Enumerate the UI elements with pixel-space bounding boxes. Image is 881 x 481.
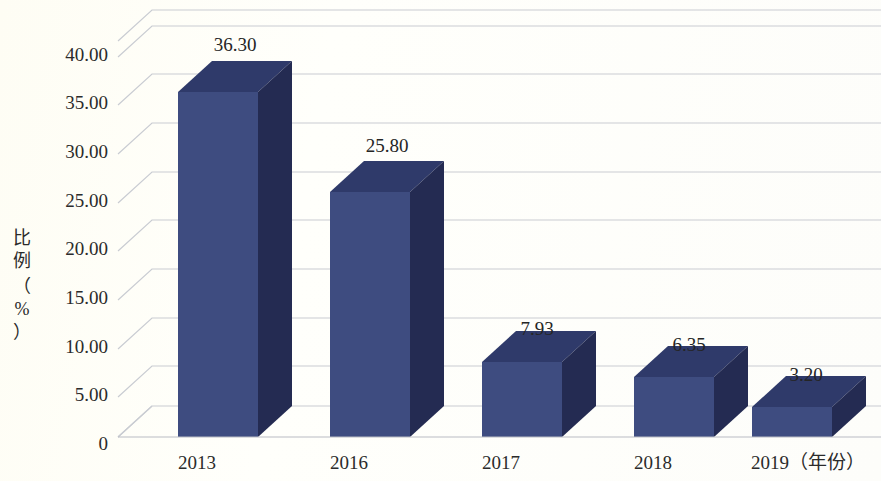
y-tick-label: 40.00 (65, 44, 108, 65)
y-axis-title-char: （ (13, 276, 31, 296)
x-axis-category-labels: 2013 2016 2017 2018 2019（年份） (178, 452, 865, 473)
data-label-2018: 6.35 (672, 334, 705, 355)
x-tick-label-2017: 2017 (482, 452, 520, 473)
x-tick-label-2013: 2013 (178, 452, 216, 473)
y-tick-label: 0 (99, 433, 109, 454)
bar-front-face (482, 362, 562, 437)
x-tick-label-2018: 2018 (634, 452, 672, 473)
data-label-2017: 7.93 (520, 318, 553, 339)
y-axis-title-char: 比 (13, 228, 31, 248)
bar-front-face (634, 377, 714, 437)
bar-2016[interactable] (330, 161, 444, 437)
bar-2017[interactable] (482, 331, 596, 437)
y-tick-label: 30.00 (65, 141, 108, 162)
y-axis-title: 比 例 （ % ） (13, 228, 31, 342)
x-tick-label-2016: 2016 (330, 452, 368, 473)
y-axis-title-char: ） (13, 322, 31, 342)
bar-side-face (410, 161, 444, 437)
y-tick-label: 35.00 (65, 92, 108, 113)
y-tick-label: 15.00 (65, 287, 108, 308)
bar-front-face (178, 92, 258, 437)
bar-2013[interactable] (178, 61, 292, 437)
y-axis-tick-labels: 40.00 35.00 30.00 25.00 20.00 15.00 10.0… (65, 44, 108, 454)
data-label-2019: 3.20 (789, 364, 822, 385)
bar-2018[interactable] (634, 346, 748, 437)
bar-side-face (258, 61, 292, 437)
data-label-2016: 25.80 (366, 135, 409, 156)
y-axis-title-char: % (15, 299, 30, 319)
y-tick-label: 25.00 (65, 190, 108, 211)
floor-left-diagonal (118, 406, 152, 437)
bar-front-face (752, 407, 832, 437)
chart-container: 40.00 35.00 30.00 25.00 20.00 15.00 10.0… (0, 0, 881, 481)
y-tick-label: 5.00 (75, 384, 108, 405)
y-tick-label: 20.00 (65, 238, 108, 259)
bar-front-face (330, 192, 410, 437)
y-axis-title-char: 例 (13, 251, 31, 271)
y-tick-label: 10.00 (65, 336, 108, 357)
data-label-2013: 36.30 (214, 34, 257, 55)
bar-chart-3d: 40.00 35.00 30.00 25.00 20.00 15.00 10.0… (0, 0, 881, 481)
x-tick-label-2019: 2019（年份） (751, 452, 865, 473)
